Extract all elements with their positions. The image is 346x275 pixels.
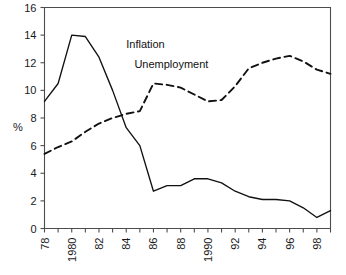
- series-label-inflation: Inflation: [126, 38, 165, 50]
- x-tick-label: 1980: [66, 238, 78, 262]
- y-tick-label: 16: [24, 2, 36, 14]
- x-tick-label: 86: [147, 238, 159, 250]
- series-label-unemployment: Unemployment: [134, 58, 208, 70]
- x-tick-label: 82: [93, 238, 105, 250]
- y-tick-label: 2: [30, 195, 36, 207]
- y-tick-label: 12: [24, 57, 36, 69]
- y-tick-label: 14: [24, 29, 36, 41]
- x-tick-label: 98: [311, 238, 323, 250]
- chart-background: [0, 0, 346, 275]
- x-tick-label: 88: [175, 238, 187, 250]
- y-tick-label: 10: [24, 84, 36, 96]
- x-tick-label: 96: [284, 238, 296, 250]
- x-tick-label: 78: [39, 238, 51, 250]
- chart-container: 0246810121416 78198082848688199092949698…: [0, 0, 346, 275]
- x-tick-label: 94: [256, 238, 268, 250]
- y-tick-label: 6: [30, 140, 36, 152]
- economic-indicators-line-chart: 0246810121416 78198082848688199092949698…: [0, 0, 346, 275]
- x-tick-label: 1990: [202, 238, 214, 262]
- y-tick-label: 8: [30, 112, 36, 124]
- y-axis-title: %: [13, 121, 23, 133]
- y-tick-label: 4: [30, 167, 36, 179]
- y-tick-label: 0: [30, 223, 36, 235]
- x-tick-label: 84: [120, 238, 132, 250]
- x-tick-label: 92: [229, 238, 241, 250]
